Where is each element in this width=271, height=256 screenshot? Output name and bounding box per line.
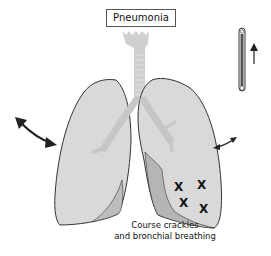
thermometer-icon — [239, 28, 245, 91]
double-arrow-small-icon — [213, 137, 237, 150]
crackle-marker: X — [199, 202, 209, 216]
lungs-diagram: X X X X — [0, 0, 271, 256]
crackle-marker: X — [174, 180, 184, 194]
double-arrow-large-icon — [15, 117, 57, 148]
crackle-marker: X — [179, 196, 189, 210]
temperature-up-arrow-icon — [250, 43, 258, 64]
caption-line-2: and bronchial breathing — [90, 231, 240, 242]
caption-line-1: Course crackles — [90, 220, 240, 231]
crackle-marker: X — [197, 178, 207, 192]
finding-caption: Course crackles and bronchial breathing — [90, 220, 240, 242]
